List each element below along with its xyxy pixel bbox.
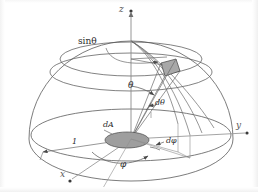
theta-label: θ — [128, 81, 133, 90]
z-axis — [129, 9, 134, 139]
sin-theta-label: sinθ — [78, 37, 97, 46]
d-phi-label: dφ — [166, 137, 177, 145]
diagram-canvas — [0, 0, 258, 192]
x-axis-label: x — [60, 170, 65, 179]
spherical-coordinates-diagram: z y x sinθ θ dθ φ dφ dA 1 — [0, 0, 258, 192]
z-axis-label: z — [119, 5, 124, 14]
solid-angle-patch — [161, 59, 180, 76]
phi-label: φ — [120, 160, 126, 169]
bottom-edge-gutter — [0, 187, 258, 192]
dA-label: dA — [103, 121, 114, 129]
dA-area-element — [104, 130, 149, 148]
y-axis-label: y — [236, 121, 241, 130]
left-edge-gutter — [0, 0, 5, 192]
right-edge-gutter — [252, 0, 258, 192]
sin-theta-leader — [106, 48, 167, 65]
unit-radius-label: 1 — [72, 138, 77, 146]
d-theta-label: dθ — [155, 99, 165, 107]
top-edge-gutter — [0, 0, 258, 3]
